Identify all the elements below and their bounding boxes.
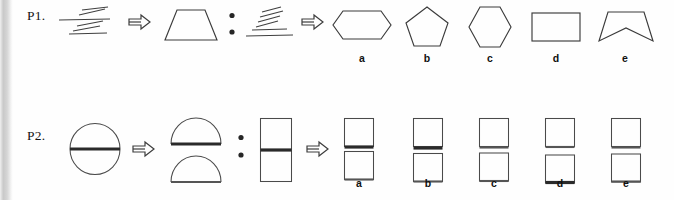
p1-option-a-elongated-hexagon[interactable] — [331, 9, 393, 41]
problem-label-p1: P1. — [27, 8, 45, 24]
p1-option-d-rectangle[interactable] — [531, 12, 581, 42]
p1-analogy-colon — [228, 12, 236, 38]
p2-arrow-1-icon — [132, 141, 156, 157]
problem-p2: P2. — [0, 100, 674, 200]
p2-stem-c-rectangle-with-horizontal-bar — [259, 117, 293, 183]
p1-arrow-1-icon — [128, 14, 152, 30]
p1-option-label-d: d — [546, 52, 566, 64]
worksheet-page: P1. — [0, 0, 674, 200]
p2-analogy-colon — [237, 134, 245, 162]
p1-option-label-c: c — [480, 52, 500, 64]
p1-option-e-concave-quadrilateral[interactable] — [597, 10, 655, 44]
p2-option-a-stacked-squares-thick-gap[interactable] — [343, 117, 375, 183]
p2-option-e-stacked-squares-medium-gap[interactable] — [610, 117, 642, 183]
p2-option-label-c: c — [484, 177, 504, 189]
problem-p1: P1. — [0, 0, 674, 100]
p1-stem-c-hatched-lines-group-stacked — [243, 6, 299, 42]
p2-option-label-b: b — [418, 177, 438, 189]
p1-stem-a-hatched-lines-group — [58, 6, 116, 42]
p2-option-label-d: d — [550, 177, 570, 189]
p2-option-label-a: a — [349, 177, 369, 189]
p2-option-d-stacked-squares-clear-gap[interactable] — [544, 117, 576, 183]
problem-label-p2: P2. — [27, 128, 45, 144]
p1-option-label-b: b — [417, 52, 437, 64]
p1-option-label-e: e — [615, 52, 635, 64]
p1-option-label-a: a — [352, 52, 372, 64]
p2-option-c-stacked-squares-thin-gap[interactable] — [478, 117, 510, 183]
p2-option-label-e: e — [616, 177, 636, 189]
p2-option-b-stacked-squares-thick-gap-wide[interactable] — [412, 117, 444, 183]
p1-option-b-pentagon[interactable] — [405, 6, 449, 48]
p2-stem-a-circle-with-horizontal-bar — [68, 122, 122, 176]
p2-stem-b-split-semicircles — [168, 114, 224, 186]
p1-stem-b-trapezoid — [163, 8, 219, 42]
p1-arrow-2-icon — [301, 14, 325, 30]
p1-option-c-hexagon[interactable] — [468, 6, 512, 48]
p2-arrow-2-icon — [306, 141, 330, 157]
